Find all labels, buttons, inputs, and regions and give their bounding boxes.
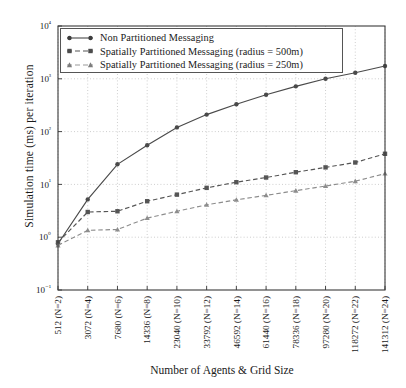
figure: Simulation time (ms) per iteration Numbe… [0,0,406,388]
x-axis-tick-label: 78336 (N=18) [291,296,301,348]
data-point-marker [234,197,239,202]
x-axis-tick-label: 23040 (N=10) [172,296,182,348]
legend-item-label: Non Partitioned Messaging [97,32,214,43]
x-axis-tick-label: 141312 (N=24) [380,296,390,353]
y-axis-tick-label: 10⁰ [39,231,51,242]
data-point-marker [204,112,208,116]
x-axis-tick-label: 97280 (N=20) [321,296,331,348]
x-axis-tick-label: 46592 (N=14) [232,296,242,348]
data-point-marker [86,197,90,201]
y-axis-tick-label: 10¹ [40,178,51,189]
data-point-marker [115,209,119,213]
data-point-marker [175,125,179,129]
x-axis-tick-label: 7680 (N=6) [113,296,123,339]
data-point-marker [234,102,238,106]
data-point-marker [293,188,298,193]
legend-item-label: Spatially Partitioned Messaging (radius … [97,46,303,57]
data-point-marker [115,162,119,166]
legend-item-label: Spatially Partitioned Messaging (radius … [97,59,303,70]
x-axis-tick-label: 61440 (N=16) [261,296,271,348]
triangle-marker-dashed-line-icon [65,59,97,71]
data-point-marker [175,192,179,196]
data-point-marker [145,143,149,147]
data-point-marker [234,180,238,184]
data-point-marker [353,160,357,164]
data-point-marker [323,165,327,169]
x-axis-tick-label: 118272 (N=22) [350,296,360,353]
x-axis-tick-label: 33792 (N=12) [202,296,212,348]
y-axis-tick-label: 10² [40,126,51,137]
data-point-marker [323,77,327,81]
legend: Non Partitioned Messaging Spatially Part… [60,28,343,73]
x-axis-tick-label: 512 (N=2) [53,296,63,335]
circle-marker-line-icon [65,32,97,44]
data-point-marker [294,170,298,174]
legend-item-partitioned-250m: Spatially Partitioned Messaging (radius … [65,58,338,72]
series-line [58,154,385,243]
data-point-marker [204,186,208,190]
x-axis-tick-label: 14336 (N=8) [142,296,152,344]
square-marker-dashed-line-icon [65,45,97,57]
legend-item-partitioned-500m: Spatially Partitioned Messaging (radius … [65,45,338,59]
y-axis-tick-label: 10³ [40,73,51,84]
data-point-marker [85,228,90,233]
x-axis-tick-label: 3072 (N=4) [83,296,93,339]
y-axis-tick-label: 10⁴ [40,20,52,31]
data-point-marker [353,71,357,75]
data-point-marker [86,210,90,214]
data-point-marker [264,175,268,179]
data-point-marker [145,199,149,203]
data-point-marker [294,84,298,88]
y-axis-tick-label: 10⁻¹ [36,284,51,295]
data-point-marker [264,92,268,96]
legend-item-non-partitioned: Non Partitioned Messaging [65,31,338,45]
series-line [58,66,385,244]
